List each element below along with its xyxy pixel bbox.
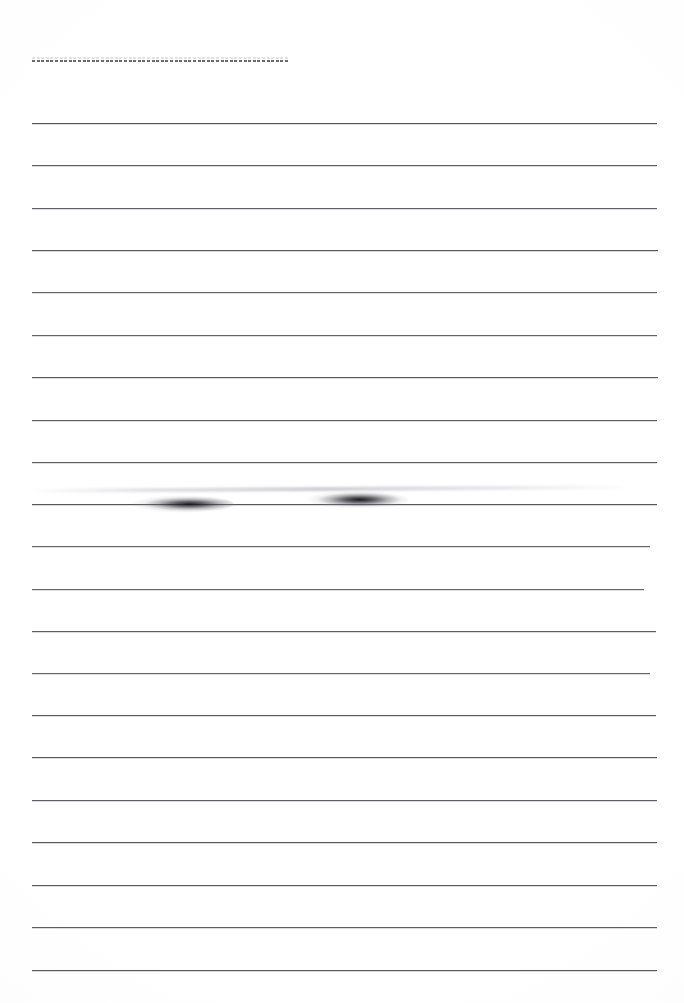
scan-ghost-streak [32,485,632,493]
ruled-line [32,250,658,251]
ruled-line [32,123,657,124]
ruled-line [32,673,650,674]
paper-texture [0,0,684,1003]
dashed-tear-line [32,60,290,62]
ruled-line [32,377,658,378]
ruled-line [32,757,657,758]
page-canvas [0,0,684,1003]
ruled-line [32,462,657,463]
ruled-line [32,715,656,716]
ruled-line [32,970,657,971]
ruled-line [32,292,657,293]
ruled-line [32,504,657,505]
ruled-line [32,335,657,336]
ruled-line [32,589,644,590]
ink-smudge-right [300,491,408,509]
ruled-line [32,208,657,209]
ruled-line [32,631,656,632]
ruled-line [32,546,650,547]
ruled-line [32,800,657,801]
ruled-line [32,420,657,421]
ruled-line [32,927,657,928]
ruled-line [32,165,657,166]
ruled-line [32,842,657,843]
ruled-line [32,885,657,886]
